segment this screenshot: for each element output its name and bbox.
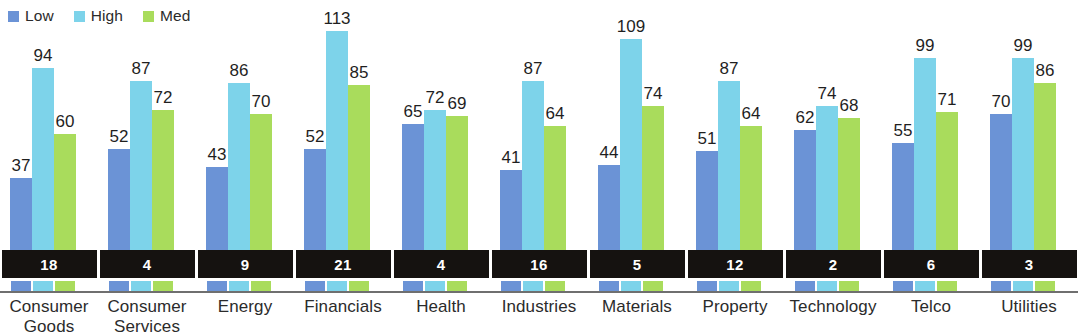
bar-value-label: 69 (437, 95, 477, 112)
category-label-line: Telco (882, 297, 980, 317)
bar-high[interactable] (32, 68, 54, 250)
count-band-row: 184921416512263 (0, 250, 1078, 278)
bar-med[interactable] (544, 126, 566, 250)
category-label: Financials (294, 297, 392, 317)
bar-value-label: 68 (829, 97, 869, 114)
count-band: 5 (590, 250, 685, 278)
plot-area: 3794605287724386705211385657269418764441… (0, 0, 1078, 250)
category-label-line: Services (98, 317, 196, 336)
count-band-value: 3 (1025, 257, 1034, 272)
count-band-value: 2 (829, 257, 838, 272)
bar-med[interactable] (54, 134, 76, 250)
bar-group: 379460 (0, 0, 98, 250)
bar-low[interactable] (108, 149, 130, 250)
bar-value-label: 99 (905, 37, 945, 54)
bar-low[interactable] (206, 167, 228, 250)
category-label-line: Financials (294, 297, 392, 317)
bar-med[interactable] (152, 110, 174, 250)
bar-high[interactable] (1012, 58, 1034, 250)
bar-low[interactable] (696, 151, 718, 250)
bar-group: 4410974 (588, 0, 686, 250)
bar-low[interactable] (598, 165, 620, 250)
bar-med[interactable] (1034, 83, 1056, 250)
bar-low[interactable] (990, 114, 1012, 250)
bar-high[interactable] (816, 106, 838, 250)
bar-high[interactable] (914, 58, 936, 250)
count-band-value: 12 (726, 257, 743, 272)
category-label: Telco (882, 297, 980, 317)
bar-group: 5211385 (294, 0, 392, 250)
category-label: Materials (588, 297, 686, 317)
bar-high[interactable] (424, 110, 446, 250)
category-label: Utilities (980, 297, 1078, 317)
category-labels-row: ConsumerGoodsConsumerServicesEnergyFinan… (0, 297, 1078, 336)
bar-value-label: 113 (317, 10, 357, 27)
category-label-line: Consumer (0, 297, 98, 317)
bar-med[interactable] (642, 106, 664, 250)
count-band: 21 (296, 250, 391, 278)
bar-group: 528772 (98, 0, 196, 250)
count-band: 4 (100, 250, 195, 278)
count-band-value: 9 (241, 257, 250, 272)
bar-high[interactable] (620, 39, 642, 250)
bar-value-label: 94 (23, 47, 63, 64)
bar-low[interactable] (500, 170, 522, 250)
bar-value-label: 99 (1003, 37, 1043, 54)
bar-low[interactable] (794, 130, 816, 250)
count-band: 9 (198, 250, 293, 278)
count-band-value: 5 (633, 257, 642, 272)
count-band-value: 18 (40, 257, 57, 272)
bar-group: 627468 (784, 0, 882, 250)
bar-group: 657269 (392, 0, 490, 250)
category-label-line: Property (686, 297, 784, 317)
bar-med[interactable] (348, 85, 370, 250)
bar-value-label: 74 (633, 85, 673, 102)
category-label: Technology (784, 297, 882, 317)
bar-group: 418764 (490, 0, 588, 250)
bar-value-label: 71 (927, 91, 967, 108)
category-label: Property (686, 297, 784, 317)
bar-med[interactable] (936, 112, 958, 250)
count-band: 2 (786, 250, 881, 278)
category-label-line: Utilities (980, 297, 1078, 317)
bar-group: 559971 (882, 0, 980, 250)
bar-value-label: 60 (45, 113, 85, 130)
bar-value-label: 109 (611, 18, 651, 35)
bar-group: 438670 (196, 0, 294, 250)
bar-med[interactable] (446, 116, 468, 250)
bar-value-label: 86 (1025, 62, 1065, 79)
bar-value-label: 72 (143, 89, 183, 106)
bar-low[interactable] (304, 149, 326, 250)
count-band-value: 4 (437, 257, 446, 272)
bar-med[interactable] (838, 118, 860, 250)
category-label: ConsumerServices (98, 297, 196, 336)
bar-med[interactable] (740, 126, 762, 250)
bar-group: 518764 (686, 0, 784, 250)
count-band-value: 21 (334, 257, 351, 272)
category-label: ConsumerGoods (0, 297, 98, 336)
bar-med[interactable] (250, 114, 272, 250)
count-band-value: 6 (927, 257, 936, 272)
bar-group: 709986 (980, 0, 1078, 250)
bar-high[interactable] (130, 81, 152, 250)
count-band-value: 4 (143, 257, 152, 272)
count-band-value: 16 (530, 257, 547, 272)
bar-value-label: 87 (121, 60, 161, 77)
count-band: 6 (884, 250, 979, 278)
count-band: 4 (394, 250, 489, 278)
bar-value-label: 64 (731, 105, 771, 122)
category-label: Industries (490, 297, 588, 317)
bar-value-label: 86 (219, 62, 259, 79)
bar-low[interactable] (10, 178, 32, 250)
category-label-line: Technology (784, 297, 882, 317)
category-label-line: Industries (490, 297, 588, 317)
bar-low[interactable] (892, 143, 914, 250)
count-band: 18 (2, 250, 97, 278)
bar-value-label: 70 (241, 93, 281, 110)
bar-value-label: 64 (535, 105, 575, 122)
bar-value-label: 85 (339, 64, 379, 81)
category-label-line: Goods (0, 317, 98, 336)
bar-low[interactable] (402, 124, 424, 250)
count-band: 16 (492, 250, 587, 278)
count-band: 12 (688, 250, 783, 278)
